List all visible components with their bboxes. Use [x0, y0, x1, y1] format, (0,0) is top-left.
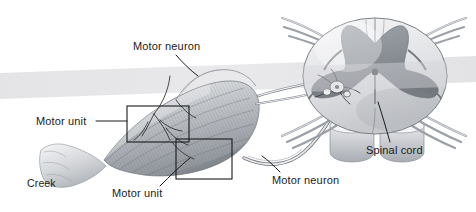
tendon	[30, 135, 120, 195]
diagram-canvas: Motor neuron Motor unit Motor unit Creek…	[0, 0, 476, 212]
anatomy-illustration	[0, 0, 476, 212]
spinal-cord-cross-section	[282, 18, 466, 148]
